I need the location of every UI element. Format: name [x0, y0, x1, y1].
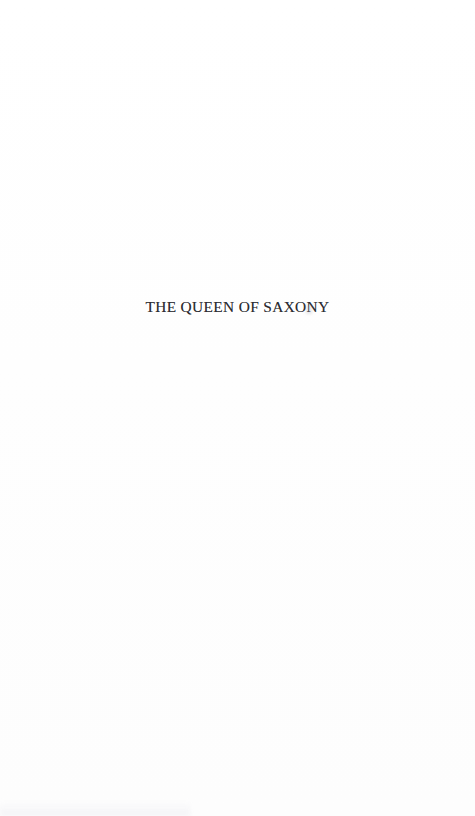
book-page: THE QUEEN OF SAXONY	[0, 0, 475, 816]
half-title-block: THE QUEEN OF SAXONY	[0, 298, 475, 316]
paper-background	[0, 0, 475, 816]
scanner-smudge-artifact	[0, 802, 190, 816]
page-title: THE QUEEN OF SAXONY	[145, 298, 329, 316]
